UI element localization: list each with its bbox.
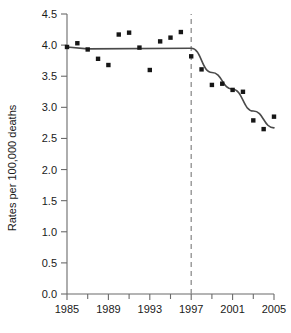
data-point	[168, 35, 172, 39]
y-tick-label: 3.0	[42, 101, 57, 113]
x-tick-label: 2005	[262, 303, 286, 315]
x-tick-label: 1997	[179, 303, 203, 315]
x-tick-label: 1993	[138, 303, 162, 315]
data-point	[230, 88, 234, 92]
data-point	[96, 57, 100, 61]
data-point	[199, 67, 203, 71]
data-point	[75, 41, 79, 45]
y-tick-label: 1.5	[42, 195, 57, 207]
data-point	[272, 114, 276, 118]
y-tick-label: 0.0	[42, 288, 57, 300]
data-point	[65, 45, 69, 49]
data-point	[261, 127, 265, 131]
data-point	[148, 68, 152, 72]
y-tick-label: 2.5	[42, 132, 57, 144]
x-tick-label: 1985	[55, 303, 79, 315]
x-tick-label: 2001	[220, 303, 244, 315]
data-point	[220, 81, 224, 85]
data-point	[189, 54, 193, 58]
data-point	[117, 32, 121, 36]
rates-trend-chart: Rates per 100,000 deaths 0.00.51.01.52.0…	[0, 0, 291, 333]
x-tick-label: 1989	[96, 303, 120, 315]
y-tick-label: 4.0	[42, 39, 57, 51]
data-point	[210, 83, 214, 87]
y-tick-label: 0.5	[42, 257, 57, 269]
data-point	[86, 47, 90, 51]
data-point	[251, 118, 255, 122]
y-tick-label: 4.5	[42, 8, 57, 20]
data-point	[241, 90, 245, 94]
chart-container: Rates per 100,000 deaths 0.00.51.01.52.0…	[0, 0, 291, 333]
data-point	[179, 30, 183, 34]
x-axis-ticks: 198519891993199720012005	[55, 294, 286, 315]
data-point	[127, 30, 131, 34]
y-tick-label: 1.0	[42, 226, 57, 238]
data-point	[137, 45, 141, 49]
data-point	[106, 63, 110, 67]
y-axis-ticks: 0.00.51.01.52.02.53.03.54.04.5	[42, 8, 67, 300]
y-tick-label: 2.0	[42, 164, 57, 176]
data-points-layer	[65, 30, 276, 131]
y-axis-title-text: Rates per 100,000 deaths	[6, 104, 18, 231]
y-axis-title: Rates per 100,000 deaths	[6, 104, 18, 231]
y-tick-label: 3.5	[42, 70, 57, 82]
data-point	[158, 39, 162, 43]
